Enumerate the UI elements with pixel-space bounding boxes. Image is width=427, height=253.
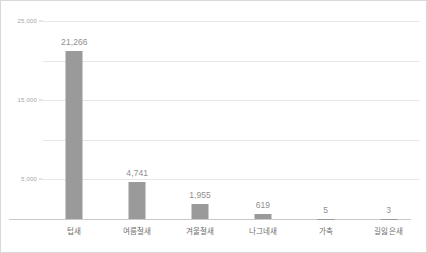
bar-value-label: 4,741 — [126, 168, 148, 178]
bar-chart-figure: 25,000 15,000 5,000 21,266 4,741 1,955 6… — [0, 0, 427, 253]
table-row[interactable] — [192, 204, 209, 220]
bar-value-label: 1,955 — [189, 190, 211, 200]
y-axis-label-5000: 5,000 — [21, 176, 37, 182]
x-axis-category-label: 길잃은새 — [374, 225, 402, 236]
bar-slot-1: 4,741 — [106, 21, 169, 219]
table-row[interactable] — [254, 214, 271, 219]
y-axis-label-25000: 25,000 — [17, 18, 37, 24]
bar-value-label: 5 — [323, 205, 328, 215]
x-axis-category-label: 여름철새 — [123, 225, 151, 236]
table-row[interactable] — [66, 51, 83, 219]
bar-value-label: 3 — [386, 205, 391, 215]
bars-layer: 21,266 4,741 1,955 619 5 3 — [43, 21, 420, 219]
y-axis-label-15000: 15,000 — [17, 97, 37, 103]
x-axis-category-label: 텁새 — [67, 225, 81, 236]
x-axis-category-label: 겨울철새 — [186, 225, 214, 236]
table-row[interactable] — [129, 182, 146, 220]
bar-slot-2: 1,955 — [169, 21, 232, 219]
x-axis-labels: 텁새 여름철새 겨울철새 나그네새 가축 길잃은새 — [43, 225, 420, 245]
x-axis-category-label: 나그네새 — [249, 225, 277, 236]
bar-slot-5: 3 — [357, 21, 420, 219]
bar-slot-4: 5 — [294, 21, 357, 219]
bar-slot-3: 619 — [232, 21, 295, 219]
bar-value-label: 619 — [256, 200, 270, 210]
x-axis-baseline — [9, 219, 411, 220]
bar-value-label: 21,266 — [61, 37, 88, 47]
x-axis-category-label: 가축 — [319, 225, 333, 236]
bar-slot-0: 21,266 — [43, 21, 106, 219]
